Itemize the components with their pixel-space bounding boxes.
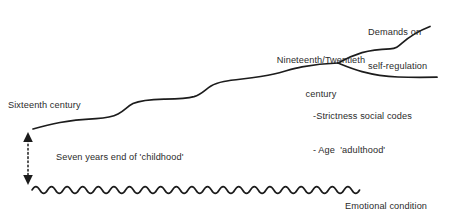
arrow-head-down [23, 175, 33, 185]
label-sixteenth-century: Sixteenth century [8, 100, 81, 111]
label-strictness-line-1: -Strictness social codes [313, 111, 412, 122]
label-demands-on-self-regulation: Demands on self-regulation [368, 4, 427, 95]
diagram-canvas: Sixteenth century Nineteenth/Twentieth c… [0, 0, 450, 217]
label-strictness-social-codes: -Strictness social codes - Age 'adulthoo… [313, 88, 412, 179]
label-strictness-line-2: - Age 'adulthood' [313, 145, 412, 156]
vertical-dotted-double-arrow [23, 132, 33, 185]
sinusoidal-baseline [32, 187, 360, 194]
label-demands-line-1: Demands on [368, 27, 427, 38]
label-nineteenth-twentieth-line-1: Nineteenth/Twentieth [262, 55, 380, 66]
label-seven-years-end-of-childhood: Seven years end of 'childhood' [56, 152, 184, 163]
label-demands-line-2: self-regulation [368, 61, 427, 72]
label-emotional-condition-newborn-babies: Emotional condition of newborn babies [345, 178, 427, 217]
label-emotional-line-1: Emotional condition [345, 201, 427, 212]
arrow-head-up [23, 132, 33, 142]
